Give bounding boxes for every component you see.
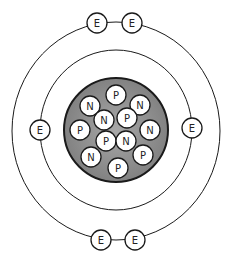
neutron: N (116, 131, 136, 151)
electron-label: E (189, 123, 195, 134)
electron-label: E (132, 235, 138, 246)
electron-label: E (94, 18, 100, 29)
neutron-label: N (146, 125, 153, 136)
neutron-label: N (86, 101, 93, 112)
proton-label: P (103, 136, 109, 147)
neutron: N (94, 110, 114, 130)
neutron-label: N (100, 115, 107, 126)
electron: E (87, 13, 107, 33)
electron: E (30, 120, 50, 140)
neutron-label: N (136, 100, 143, 111)
electron: E (182, 118, 202, 138)
proton-label: P (113, 90, 119, 101)
electron-label: E (98, 235, 104, 246)
proton: P (96, 131, 116, 151)
electron-label: E (37, 125, 43, 136)
proton: P (117, 108, 137, 128)
proton-label: P (115, 163, 121, 174)
electron: E (122, 13, 142, 33)
neutron: N (140, 120, 160, 140)
proton: P (70, 120, 90, 140)
proton: P (106, 85, 126, 105)
proton-label: P (140, 150, 146, 161)
proton-label: P (124, 113, 130, 124)
atom-diagram: PNNNPPNPNNPPEEEEEE (0, 0, 234, 261)
neutron-label: N (122, 136, 129, 147)
proton: P (108, 158, 128, 178)
neutron: N (81, 147, 101, 167)
neutron-label: N (87, 152, 94, 163)
electron: E (125, 230, 145, 250)
electron-label: E (129, 18, 135, 29)
proton-label: P (77, 125, 83, 136)
proton: P (133, 145, 153, 165)
electron: E (91, 230, 111, 250)
